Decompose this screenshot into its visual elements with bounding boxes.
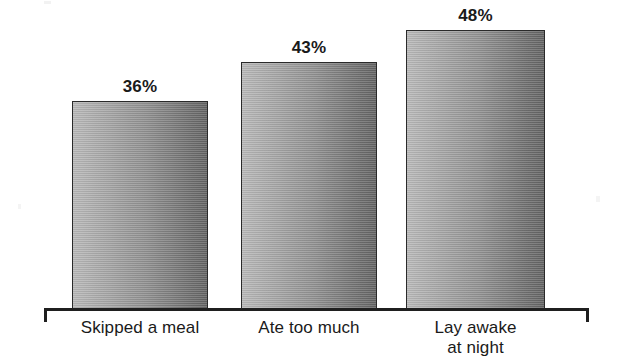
bar-ate-too-much — [241, 62, 377, 310]
plot-area: 36% 43% 48% Skipped a meal Ate too much … — [0, 0, 624, 364]
bar-value-label: 48% — [406, 6, 545, 26]
bar-lay-awake-at-night — [406, 30, 545, 310]
category-label-ate-too-much: Ate too much — [219, 318, 399, 338]
x-axis-line — [44, 308, 589, 311]
bar-skipped-a-meal — [72, 101, 208, 310]
category-label-lay-awake-at-night: Lay awake at night — [384, 318, 567, 358]
bar-value-label: 36% — [72, 77, 208, 97]
x-axis-left-cap — [44, 308, 47, 322]
category-label-skipped-a-meal: Skipped a meal — [50, 318, 230, 338]
bar-value-label: 43% — [241, 38, 377, 58]
bar-chart: 36% 43% 48% Skipped a meal Ate too much … — [0, 0, 624, 364]
x-axis-right-cap — [586, 308, 589, 322]
